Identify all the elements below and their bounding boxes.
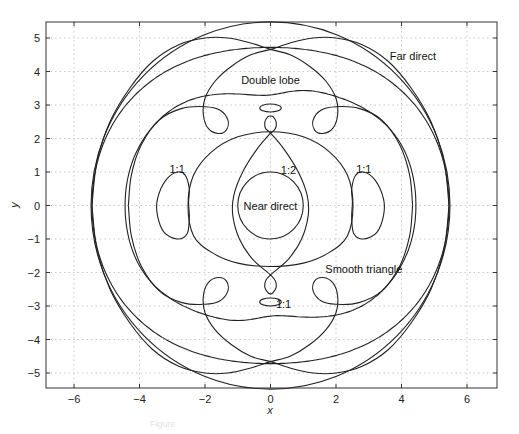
- curve-double-lobe-upper-arches-with-loops: [128, 37, 449, 205]
- x-tick-label: 4: [398, 393, 404, 405]
- y-tick-label: −2: [27, 267, 40, 279]
- y-tick-label: 4: [34, 66, 40, 78]
- curve-double-lobe-arches-with-loops: [128, 206, 449, 374]
- y-tick-label: 0: [34, 200, 40, 212]
- x-axis-label: x: [266, 404, 273, 416]
- x-tick-label: −2: [199, 393, 212, 405]
- y-tick-label: 1: [34, 166, 40, 178]
- y-tick-label: −4: [27, 334, 40, 346]
- y-tick-label: 5: [34, 32, 40, 44]
- y-tick-label: 2: [34, 133, 40, 145]
- annotation-1-1: 1:1: [276, 298, 291, 310]
- figure-caption: Figure: [150, 419, 450, 429]
- x-tick-label: 6: [464, 393, 470, 405]
- annotation-1-2: 1:2: [281, 164, 296, 176]
- phase-plot: −6−4−20246−5−4−3−2−1012345 Far directDou…: [0, 0, 519, 434]
- annotation-1-1: 1:1: [170, 163, 185, 175]
- x-tick-label: 2: [333, 393, 339, 405]
- x-tick-label: −6: [68, 393, 81, 405]
- curve-double-lobe-arches-with-loops-mirrored: [92, 206, 413, 374]
- y-axis-label: y: [8, 201, 20, 209]
- y-tick-label: −5: [27, 367, 40, 379]
- annotation-far-direct: Far direct: [390, 50, 436, 62]
- annotation-near-direct: Near direct: [244, 200, 298, 212]
- y-tick-label: −1: [27, 233, 40, 245]
- annotation-smooth-triangle: Smooth triangle: [325, 263, 402, 275]
- x-tick-label: −4: [133, 393, 146, 405]
- annotation-double-lobe: Double lobe: [241, 74, 300, 86]
- y-tick-label: −3: [27, 300, 40, 312]
- annotation-1-1: 1:1: [356, 163, 371, 175]
- y-tick-label: 3: [34, 99, 40, 111]
- curve-double-lobe-upper-arches-mirrored: [92, 37, 413, 205]
